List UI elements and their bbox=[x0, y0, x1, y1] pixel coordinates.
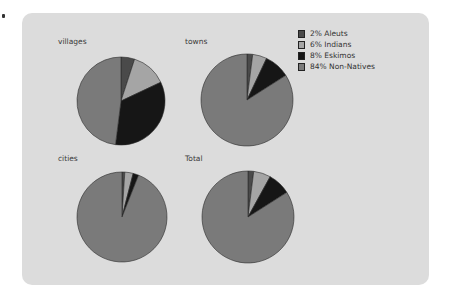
legend-swatch bbox=[298, 52, 305, 60]
pie-title: villages bbox=[58, 37, 87, 46]
legend-label: 2% Aleuts bbox=[310, 29, 348, 38]
legend-label: 84% Non-Natives bbox=[310, 62, 375, 71]
legend-item-indians: 6% Indians bbox=[298, 40, 408, 51]
legend-item-aleuts: 2% Aleuts bbox=[298, 29, 408, 40]
legend-swatch bbox=[298, 41, 305, 49]
legend-item-eskimos: 8% Eskimos bbox=[298, 51, 408, 62]
legend-swatch bbox=[298, 30, 305, 38]
pie-chart bbox=[200, 169, 296, 265]
pie-title: Total bbox=[185, 154, 203, 163]
legend-item-non-natives: 84% Non-Natives bbox=[298, 62, 408, 73]
legend-swatch bbox=[298, 63, 305, 71]
pie-chart bbox=[75, 55, 167, 147]
legend-label: 6% Indians bbox=[310, 40, 351, 49]
pie-slice-non-natives bbox=[77, 172, 167, 262]
corner-mark bbox=[2, 14, 5, 18]
pie-title: towns bbox=[185, 37, 207, 46]
legend: 2% Aleuts 6% Indians 8% Eskimos 84% Non-… bbox=[298, 29, 408, 73]
pie-slice-non-natives bbox=[77, 57, 121, 145]
pie-chart bbox=[199, 52, 295, 148]
legend-label: 8% Eskimos bbox=[310, 51, 355, 60]
pie-chart bbox=[75, 170, 169, 264]
pie-title: cities bbox=[58, 154, 78, 163]
